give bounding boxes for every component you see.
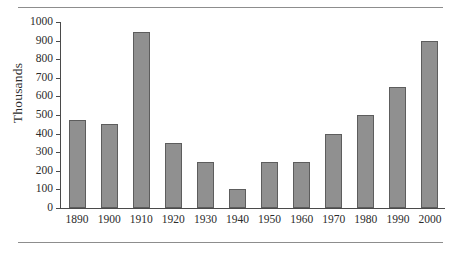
x-tick-label: 1920 xyxy=(162,214,185,226)
bottom-rule xyxy=(18,242,443,243)
y-tick-mark xyxy=(56,208,60,209)
y-tick-label: 800 xyxy=(36,53,53,65)
top-rule xyxy=(18,7,443,8)
y-tick-mark xyxy=(56,152,60,153)
y-tick-label: 200 xyxy=(36,165,53,177)
y-tick-label: 900 xyxy=(36,35,53,47)
y-axis-line xyxy=(60,22,61,208)
x-tick-label: 1940 xyxy=(226,214,249,226)
y-axis-title-label: Thousands xyxy=(10,63,26,123)
y-tick-mark xyxy=(56,134,60,135)
y-tick-label: 1000 xyxy=(30,16,53,28)
y-tick-mark xyxy=(56,41,60,42)
x-tick-label: 1900 xyxy=(98,214,121,226)
bar xyxy=(389,87,406,208)
y-tick-label: 0 xyxy=(47,202,53,214)
x-tick-label: 1910 xyxy=(130,214,153,226)
x-tick-label: 1890 xyxy=(66,214,89,226)
x-tick-label: 1930 xyxy=(194,214,217,226)
y-axis-title: Thousands xyxy=(9,0,27,186)
y-tick-label: 400 xyxy=(36,128,53,140)
y-tick-label: 500 xyxy=(36,109,53,121)
x-tick-label: 1980 xyxy=(354,214,377,226)
y-tick-label: 300 xyxy=(36,146,53,158)
y-tick-mark xyxy=(56,59,60,60)
bar xyxy=(293,162,310,209)
x-tick-label: 2000 xyxy=(418,214,441,226)
figure: Thousands 010020030040050060070080090010… xyxy=(0,0,461,254)
plot-area: 01002003004005006007008009001000 1890190… xyxy=(60,22,445,208)
bar xyxy=(165,143,182,208)
bar xyxy=(69,120,86,208)
bar xyxy=(357,115,374,208)
y-tick-mark xyxy=(56,189,60,190)
y-tick-mark xyxy=(56,22,60,23)
y-tick-mark xyxy=(56,96,60,97)
y-tick-mark xyxy=(56,115,60,116)
bar xyxy=(229,189,246,208)
x-axis-line xyxy=(60,208,445,209)
y-tick-mark xyxy=(56,171,60,172)
bar xyxy=(421,41,438,208)
y-tick-mark xyxy=(56,78,60,79)
x-tick-label: 1990 xyxy=(386,214,409,226)
x-tick-label: 1950 xyxy=(258,214,281,226)
x-tick-label: 1960 xyxy=(290,214,313,226)
y-tick-label: 700 xyxy=(36,72,53,84)
bar xyxy=(261,162,278,209)
bar xyxy=(197,162,214,209)
bar xyxy=(101,124,118,208)
bar xyxy=(133,32,150,208)
bar xyxy=(325,134,342,208)
y-tick-label: 600 xyxy=(36,91,53,103)
x-tick-label: 1970 xyxy=(322,214,345,226)
y-tick-label: 100 xyxy=(36,184,53,196)
